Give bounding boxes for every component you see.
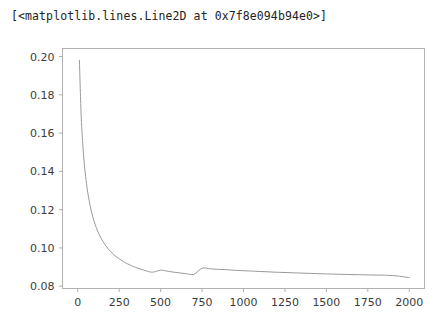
line-chart: 025050075010001250150017502000 0.080.100…: [0, 33, 443, 323]
svg-text:250: 250: [109, 296, 130, 309]
matplotlib-figure: 025050075010001250150017502000 0.080.100…: [0, 33, 443, 323]
svg-text:1750: 1750: [354, 296, 382, 309]
svg-text:0.10: 0.10: [30, 242, 55, 255]
svg-text:0.16: 0.16: [30, 127, 55, 140]
svg-text:0.20: 0.20: [30, 51, 55, 64]
svg-text:2000: 2000: [395, 296, 423, 309]
svg-text:1000: 1000: [230, 296, 258, 309]
x-axis-tick-labels: 025050075010001250150017502000: [74, 296, 423, 309]
svg-text:0.18: 0.18: [30, 89, 55, 102]
matplotlib-repr-text: [<matplotlib.lines.Line2D at 0x7f8e094b9…: [11, 9, 327, 23]
svg-text:1500: 1500: [312, 296, 340, 309]
svg-text:0.14: 0.14: [30, 165, 55, 178]
svg-text:0: 0: [74, 296, 81, 309]
figure-background: [0, 33, 443, 323]
svg-text:0.08: 0.08: [30, 280, 55, 293]
notebook-output-cell: [<matplotlib.lines.Line2D at 0x7f8e094b9…: [0, 0, 443, 323]
svg-text:750: 750: [192, 296, 213, 309]
svg-text:0.12: 0.12: [30, 204, 55, 217]
svg-text:1250: 1250: [271, 296, 299, 309]
svg-text:500: 500: [150, 296, 171, 309]
